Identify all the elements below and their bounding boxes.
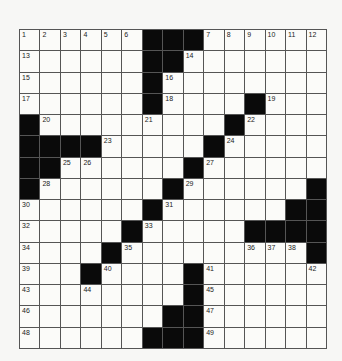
grid-cell[interactable]	[102, 306, 121, 326]
grid-cell[interactable]: 18	[163, 94, 182, 114]
grid-cell[interactable]	[225, 243, 244, 263]
grid-cell[interactable]	[163, 115, 182, 135]
grid-cell[interactable]: 9	[245, 30, 264, 50]
grid-cell[interactable]: 8	[225, 30, 244, 50]
grid-cell[interactable]	[225, 200, 244, 220]
grid-cell[interactable]: 5	[102, 30, 121, 50]
grid-cell[interactable]	[143, 306, 162, 326]
grid-cell[interactable]	[102, 73, 121, 93]
grid-cell[interactable]	[204, 243, 223, 263]
grid-cell[interactable]	[61, 200, 80, 220]
grid-cell[interactable]	[286, 179, 305, 199]
grid-cell[interactable]	[122, 179, 141, 199]
grid-cell[interactable]: 34	[20, 243, 39, 263]
grid-cell[interactable]	[245, 264, 264, 284]
grid-cell[interactable]: 21	[143, 115, 162, 135]
grid-cell[interactable]: 7	[204, 30, 223, 50]
grid-cell[interactable]: 46	[20, 306, 39, 326]
grid-cell[interactable]	[122, 158, 141, 178]
grid-cell[interactable]	[245, 73, 264, 93]
grid-cell[interactable]: 45	[204, 285, 223, 305]
grid-cell[interactable]	[122, 94, 141, 114]
grid-cell[interactable]: 47	[204, 306, 223, 326]
grid-cell[interactable]	[102, 94, 121, 114]
grid-cell[interactable]: 29	[184, 179, 203, 199]
grid-cell[interactable]	[184, 243, 203, 263]
grid-cell[interactable]	[245, 51, 264, 71]
grid-cell[interactable]	[286, 136, 305, 156]
grid-cell[interactable]: 25	[61, 158, 80, 178]
grid-cell[interactable]	[143, 243, 162, 263]
grid-cell[interactable]	[225, 51, 244, 71]
grid-cell[interactable]	[225, 285, 244, 305]
grid-cell[interactable]	[61, 115, 80, 135]
grid-cell[interactable]: 4	[81, 30, 100, 50]
grid-cell[interactable]: 26	[81, 158, 100, 178]
grid-cell[interactable]	[225, 221, 244, 241]
grid-cell[interactable]	[81, 221, 100, 241]
grid-cell[interactable]	[122, 285, 141, 305]
grid-cell[interactable]	[225, 328, 244, 348]
grid-cell[interactable]	[225, 73, 244, 93]
grid-cell[interactable]: 3	[61, 30, 80, 50]
grid-cell[interactable]	[163, 136, 182, 156]
grid-cell[interactable]	[40, 200, 59, 220]
grid-cell[interactable]	[184, 94, 203, 114]
grid-cell[interactable]	[286, 115, 305, 135]
grid-cell[interactable]: 20	[40, 115, 59, 135]
grid-cell[interactable]	[40, 306, 59, 326]
grid-cell[interactable]	[266, 264, 285, 284]
grid-cell[interactable]	[266, 51, 285, 71]
grid-cell[interactable]	[163, 158, 182, 178]
grid-cell[interactable]	[61, 264, 80, 284]
grid-cell[interactable]	[245, 328, 264, 348]
grid-cell[interactable]	[122, 73, 141, 93]
grid-cell[interactable]: 12	[307, 30, 326, 50]
grid-cell[interactable]	[225, 306, 244, 326]
grid-cell[interactable]: 44	[81, 285, 100, 305]
grid-cell[interactable]	[61, 221, 80, 241]
grid-cell[interactable]: 10	[266, 30, 285, 50]
grid-cell[interactable]	[245, 285, 264, 305]
grid-cell[interactable]	[40, 285, 59, 305]
grid-cell[interactable]: 32	[20, 221, 39, 241]
grid-cell[interactable]	[184, 115, 203, 135]
grid-cell[interactable]	[61, 328, 80, 348]
grid-cell[interactable]: 1	[20, 30, 39, 50]
grid-cell[interactable]	[286, 94, 305, 114]
grid-cell[interactable]	[184, 221, 203, 241]
grid-cell[interactable]	[204, 179, 223, 199]
grid-cell[interactable]	[184, 73, 203, 93]
grid-cell[interactable]: 39	[20, 264, 39, 284]
grid-cell[interactable]	[40, 221, 59, 241]
grid-cell[interactable]	[225, 158, 244, 178]
grid-cell[interactable]: 19	[266, 94, 285, 114]
grid-cell[interactable]	[266, 328, 285, 348]
grid-cell[interactable]: 41	[204, 264, 223, 284]
grid-cell[interactable]	[204, 221, 223, 241]
grid-cell[interactable]	[266, 179, 285, 199]
grid-cell[interactable]: 36	[245, 243, 264, 263]
grid-cell[interactable]	[143, 158, 162, 178]
grid-cell[interactable]	[122, 115, 141, 135]
grid-cell[interactable]	[122, 264, 141, 284]
grid-cell[interactable]	[40, 243, 59, 263]
grid-cell[interactable]	[61, 179, 80, 199]
grid-cell[interactable]	[245, 136, 264, 156]
grid-cell[interactable]	[122, 200, 141, 220]
grid-cell[interactable]	[102, 285, 121, 305]
grid-cell[interactable]	[184, 200, 203, 220]
grid-cell[interactable]	[307, 306, 326, 326]
grid-cell[interactable]	[286, 158, 305, 178]
grid-cell[interactable]	[61, 243, 80, 263]
grid-cell[interactable]	[122, 136, 141, 156]
grid-cell[interactable]	[307, 94, 326, 114]
grid-cell[interactable]	[81, 94, 100, 114]
grid-cell[interactable]	[266, 285, 285, 305]
grid-cell[interactable]	[204, 73, 223, 93]
grid-cell[interactable]: 37	[266, 243, 285, 263]
grid-cell[interactable]	[102, 328, 121, 348]
grid-cell[interactable]	[163, 243, 182, 263]
grid-cell[interactable]	[245, 200, 264, 220]
grid-cell[interactable]	[204, 115, 223, 135]
